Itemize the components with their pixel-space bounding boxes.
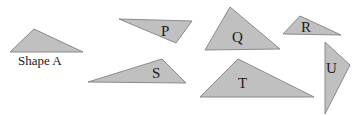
shape-t: T bbox=[200, 59, 314, 97]
label-r: R bbox=[301, 19, 311, 35]
triangle-r bbox=[283, 16, 341, 35]
label-shape-a: Shape A bbox=[18, 53, 62, 68]
triangle-a bbox=[10, 29, 83, 52]
label-u: U bbox=[326, 60, 337, 76]
shape-r: R bbox=[283, 16, 341, 35]
triangle-p bbox=[119, 19, 192, 43]
shape-q: Q bbox=[205, 7, 280, 50]
diagram-svg: Shape A P Q R S T U bbox=[0, 0, 357, 116]
label-s: S bbox=[152, 65, 160, 81]
shape-p: P bbox=[119, 19, 192, 43]
label-q: Q bbox=[232, 29, 243, 45]
triangle-u bbox=[325, 42, 350, 114]
shape-s: S bbox=[88, 59, 186, 83]
label-p: P bbox=[161, 23, 169, 39]
shape-a: Shape A bbox=[10, 29, 83, 68]
shape-u: U bbox=[325, 42, 350, 114]
triangle-t bbox=[200, 59, 314, 97]
label-t: T bbox=[238, 75, 247, 91]
triangle-s bbox=[88, 59, 186, 83]
triangle-diagram: Shape A P Q R S T U bbox=[0, 0, 357, 116]
